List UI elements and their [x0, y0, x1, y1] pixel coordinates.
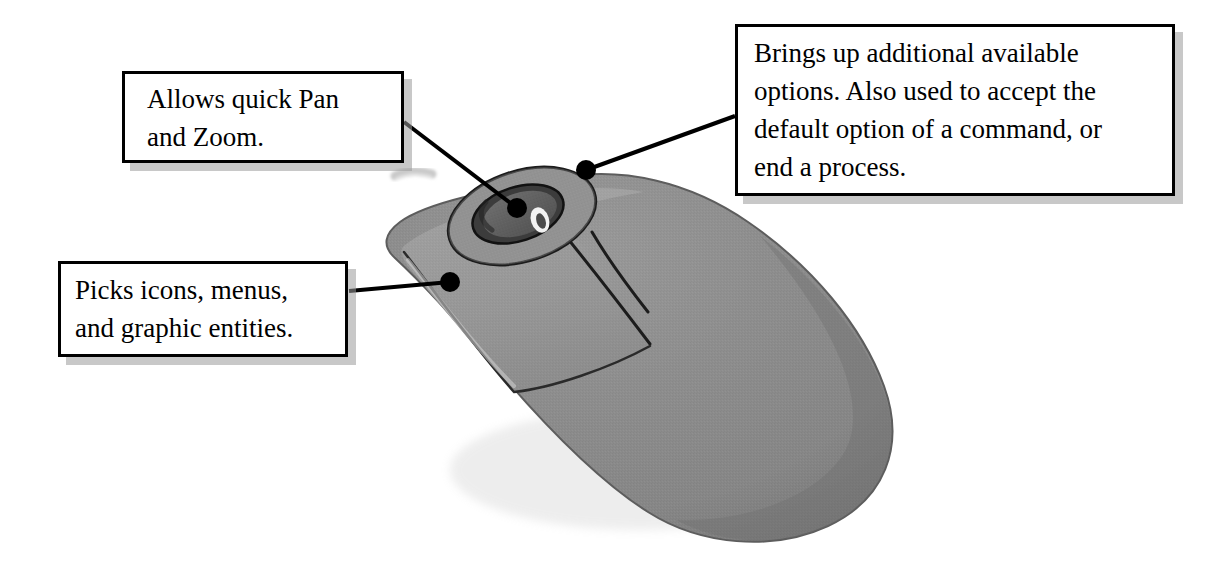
- leader-scroll-wheel: [404, 122, 517, 208]
- marker-right-button: [576, 160, 596, 180]
- scroll-wheel-callout[interactable]: Allows quick Pan and Zoom.: [122, 71, 404, 163]
- scroll-wheel-callout-text: Allows quick Pan and Zoom.: [125, 74, 401, 156]
- marker-left-button: [440, 272, 460, 292]
- marker-scroll-wheel: [507, 198, 527, 218]
- left-button-callout-text: Picks icons, menus, and graphic entities…: [61, 264, 345, 347]
- left-button-callout[interactable]: Picks icons, menus, and graphic entities…: [58, 261, 348, 357]
- mouse-cable: [395, 172, 432, 179]
- figure-canvas: Allows quick Pan and Zoom. Brings up add…: [0, 0, 1228, 567]
- right-button-callout[interactable]: Brings up additional available options. …: [735, 24, 1175, 196]
- right-button-callout-text: Brings up additional available options. …: [738, 27, 1172, 186]
- leader-right-button: [586, 116, 735, 170]
